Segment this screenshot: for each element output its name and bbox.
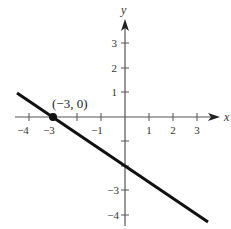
x-tick-label: −1 (91, 124, 103, 136)
coordinate-plane: x y −4 −3 −1 1 2 3 3 2 1 −3 −4 (0, 0, 231, 229)
x-tick-label: −3 (43, 124, 55, 136)
y-tick-label: −3 (107, 184, 119, 196)
data-line (17, 93, 208, 222)
x-tick-labels: −4 −3 −1 1 2 3 (17, 124, 200, 136)
y-axis-label: y (120, 3, 127, 17)
point-label: (−3, 0) (52, 96, 88, 111)
x-tick-label: 3 (194, 124, 200, 136)
y-tick-label: 1 (112, 86, 118, 98)
y-tick-labels: 3 2 1 −3 −4 (107, 37, 119, 221)
x-tick-label: 2 (170, 124, 176, 136)
y-tick-label: −4 (107, 209, 119, 221)
x-tick-label: 1 (146, 124, 152, 136)
y-tick-label: 3 (112, 37, 118, 49)
y-axis: y (120, 3, 129, 226)
y-tick-label: 2 (112, 62, 118, 74)
x-tick-label: −4 (17, 124, 29, 136)
point-marker (49, 113, 57, 121)
x-axis-label: x (223, 110, 230, 124)
